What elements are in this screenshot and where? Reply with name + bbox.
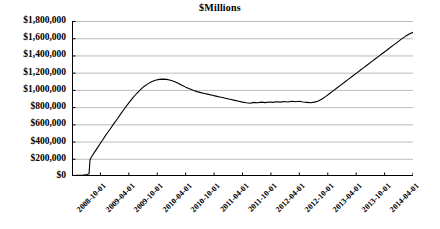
y-axis: $0$200,000$400,000$600,000$800,000$1,000… <box>0 21 66 176</box>
y-tick-label: $1,200,000 <box>0 68 66 78</box>
x-tick-label: 2011-04-01 <box>218 182 250 214</box>
plot-area <box>72 21 413 176</box>
x-tick-label: 2009-04-01 <box>104 182 136 214</box>
x-tick-label: 2013-04-01 <box>332 182 364 214</box>
y-tick-label: $1,800,000 <box>0 16 66 26</box>
x-tick-label: 2013-10-01 <box>360 182 392 214</box>
y-tick-label: $200,000 <box>0 154 66 164</box>
chart-title: $Millions <box>0 2 440 14</box>
gridlines <box>72 22 413 177</box>
x-tick-label: 2010-04-01 <box>161 182 193 214</box>
x-tick-label: 2011-10-01 <box>247 182 279 214</box>
x-tick-label: 2009-10-01 <box>133 182 165 214</box>
x-tick-label: 2012-04-01 <box>275 182 307 214</box>
y-tick-label: $800,000 <box>0 102 66 112</box>
y-tick-label: $1,400,000 <box>0 51 66 61</box>
x-tick-label: 2012-10-01 <box>303 182 335 214</box>
data-series-line <box>72 32 413 175</box>
x-axis: 2008-10-012009-04-012009-10-012010-04-01… <box>0 176 440 229</box>
line-chart-svg <box>72 21 413 176</box>
x-tick-label: 2008-10-01 <box>76 182 108 214</box>
x-tick-label: 2010-10-01 <box>190 182 222 214</box>
y-tick-label: $1,600,000 <box>0 33 66 43</box>
x-tick-label: 2014-04-01 <box>389 182 421 214</box>
y-tick-label: $1,000,000 <box>0 85 66 95</box>
chart-container: $Millions $0$200,000$400,000$600,000$800… <box>0 0 440 229</box>
y-tick-label: $600,000 <box>0 120 66 130</box>
y-tick-label: $400,000 <box>0 137 66 147</box>
